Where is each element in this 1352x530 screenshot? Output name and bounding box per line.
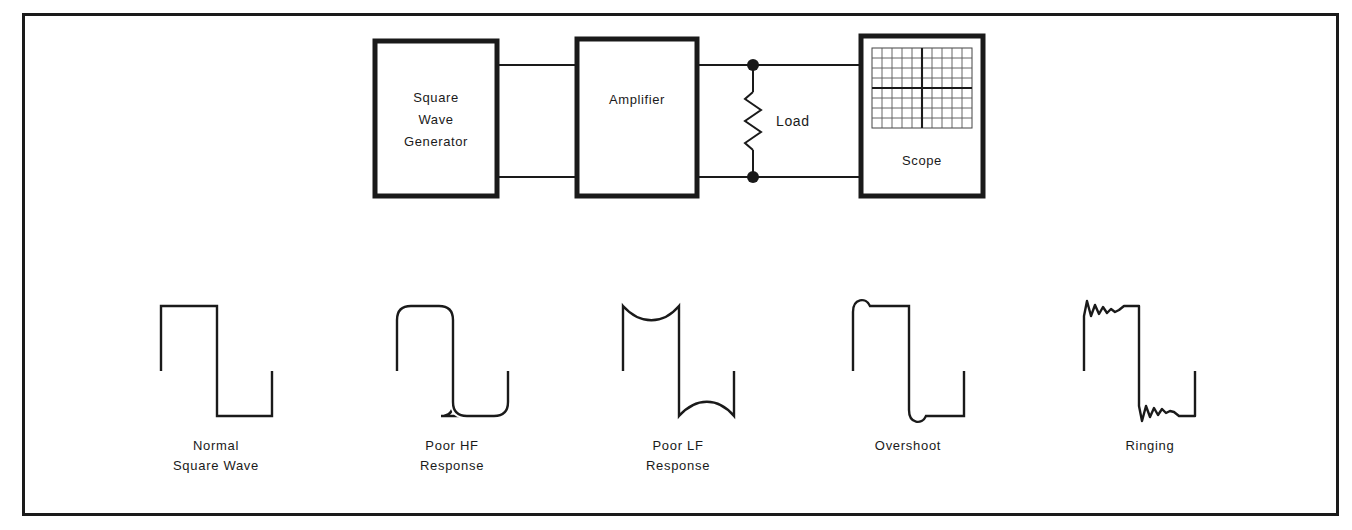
waveform-poor-hf-trace — [397, 306, 508, 416]
waveform-poor-lf-caption-line-2: Response — [646, 458, 710, 473]
waveform-normal-caption-line-2: Square Wave — [173, 458, 259, 473]
waveform-normal-caption-line-1: Normal — [193, 438, 239, 453]
scope-label: Scope — [902, 153, 942, 168]
waveform-poor-lf-response — [623, 306, 734, 416]
scope-graticule-icon — [872, 48, 972, 128]
load-label: Load — [776, 113, 810, 129]
junction-dot-top — [747, 59, 759, 71]
waveform-overshoot — [853, 300, 964, 422]
amplifier-label: Amplifier — [609, 92, 665, 107]
waveform-poor-hf-caption-line-2: Response — [420, 458, 484, 473]
junction-dot-bottom — [747, 171, 759, 183]
waveform-normal-square-wave — [161, 306, 272, 416]
waveform-poor-hf-caption-line-1: Poor HF — [425, 438, 478, 453]
amplifier-block[interactable] — [577, 39, 697, 196]
figure-canvas: Load Square Wave Generator Amplifier — [0, 0, 1352, 530]
generator-label-line-3: Generator — [404, 134, 468, 149]
waveform-ringing — [1084, 301, 1195, 421]
generator-label-line-1: Square — [413, 90, 459, 105]
waveform-overshoot-caption: Overshoot — [875, 438, 941, 453]
zigzag-resistor-icon — [745, 92, 761, 150]
waveform-poor-lf-caption-line-1: Poor LF — [652, 438, 703, 453]
generator-label-line-2: Wave — [418, 112, 453, 127]
waveform-ringing-caption: Ringing — [1126, 438, 1175, 453]
